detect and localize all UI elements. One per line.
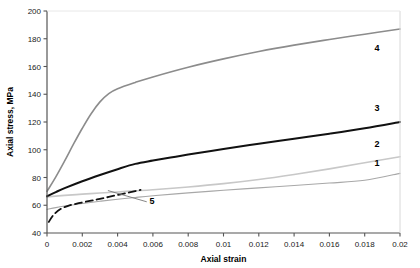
x-axis-tick-label: 0.012 — [249, 240, 270, 249]
x-axis-title: Axial strain — [201, 254, 247, 264]
x-axis-tick-label: 0.016 — [319, 240, 340, 249]
y-axis-tick-label: 120 — [28, 118, 42, 127]
curve-label-4: 4 — [375, 43, 380, 53]
y-axis-tick-label: 200 — [28, 7, 42, 16]
curve-label-3: 3 — [375, 103, 380, 113]
curve-label-2: 2 — [375, 139, 380, 149]
y-axis-tick-label: 140 — [28, 90, 42, 99]
y-axis-tick-label: 160 — [28, 63, 42, 72]
x-axis-tick-label: 0.002 — [72, 240, 93, 249]
x-axis-tick-label: 0.02 — [392, 240, 408, 249]
x-axis-tick-label: 0.014 — [284, 240, 305, 249]
x-axis-tick-label: 0.01 — [216, 240, 232, 249]
y-axis-tick-label: 40 — [32, 229, 41, 238]
y-axis-tick-label: 60 — [32, 201, 41, 210]
y-axis-title: Axial stress, MPa — [5, 87, 15, 157]
x-axis-tick-label: 0.008 — [178, 240, 199, 249]
chart-background — [0, 0, 420, 268]
x-axis-tick-label: 0.006 — [143, 240, 164, 249]
curve-label-5: 5 — [150, 196, 155, 206]
stress-strain-chart: 40608010012014016018020000.0020.0040.006… — [0, 0, 420, 268]
x-axis-tick-label: 0.018 — [355, 240, 376, 249]
y-axis-tick-label: 100 — [28, 146, 42, 155]
y-axis-tick-label: 180 — [28, 35, 42, 44]
y-axis-tick-label: 80 — [32, 174, 41, 183]
x-axis-tick-label: 0 — [45, 240, 50, 249]
x-axis-tick-label: 0.004 — [108, 240, 129, 249]
curve-label-1: 1 — [375, 158, 380, 168]
